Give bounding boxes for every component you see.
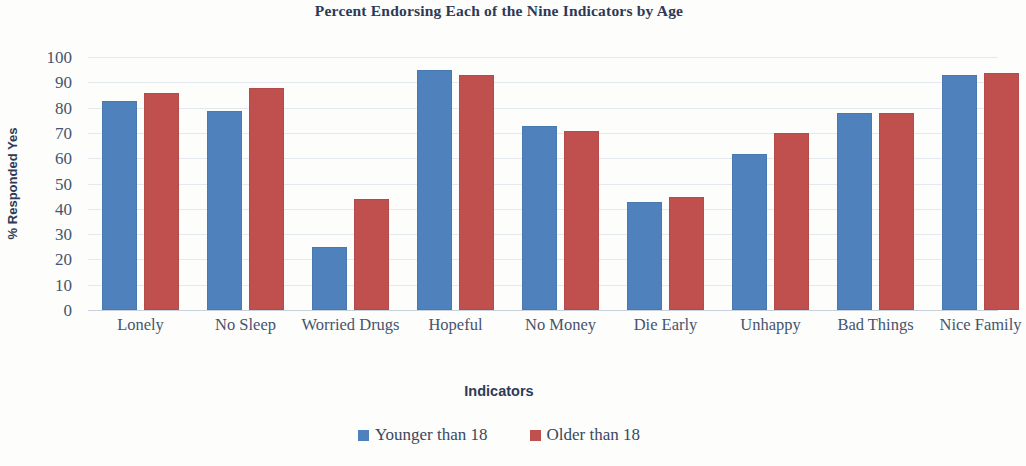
bar-younger [627,202,662,310]
legend-swatch-icon [530,430,541,441]
bar-group [823,57,928,310]
bar-younger [312,247,347,310]
bar-younger [207,111,242,310]
bar-group [928,57,1026,310]
bar-group [718,57,823,310]
legend-label: Younger than 18 [375,425,488,445]
x-tick-label: Unhappy [718,316,823,370]
bar-older [879,113,914,310]
x-tick-label: Nice Family [928,316,1026,370]
y-tick-label: 10 [55,276,72,293]
legend-label: Older than 18 [547,425,640,445]
bar-younger [417,70,452,310]
bar-group [403,57,508,310]
bar-older [669,197,704,310]
y-tick-label: 60 [55,150,72,167]
chart-legend: Younger than 18Older than 18 [0,425,998,445]
legend-item[interactable]: Older than 18 [530,425,640,445]
y-tick-label: 70 [55,124,72,141]
y-tick-label: 0 [64,302,73,319]
y-tick-label: 30 [55,226,72,243]
x-tick-label: No Money [508,316,613,370]
bar-group [88,57,193,310]
bar-group [508,57,613,310]
y-tick-label: 100 [47,49,73,66]
bar-younger [942,75,977,310]
y-tick-label: 50 [55,175,72,192]
bar-younger [732,154,767,310]
legend-item[interactable]: Younger than 18 [358,425,488,445]
plot-area [88,57,998,310]
x-axis: LonelyNo SleepWorried DrugsHopefulNo Mon… [88,316,998,370]
bar-older [459,75,494,310]
chart-title: Percent Endorsing Each of the Nine Indic… [0,2,998,20]
x-tick-label: No Sleep [193,316,298,370]
legend-swatch-icon [358,430,369,441]
bar-groups [88,57,998,310]
bar-older [144,93,179,310]
bar-older [564,131,599,310]
y-tick-label: 80 [55,99,72,116]
x-tick-label: Worried Drugs [298,316,403,370]
y-tick-label: 20 [55,251,72,268]
x-tick-label: Lonely [88,316,193,370]
x-tick-label: Die Early [613,316,718,370]
bar-younger [102,101,137,310]
x-tick-label: Bad Things [823,316,928,370]
bar-older [774,133,809,310]
bar-group [193,57,298,310]
bar-older [249,88,284,310]
bar-younger [837,113,872,310]
x-tick-label: Hopeful [403,316,508,370]
bar-group [613,57,718,310]
bar-older [354,199,389,310]
x-axis-title: Indicators [0,383,998,399]
gridline-0 [88,310,998,311]
y-tick-label: 40 [55,200,72,217]
y-tick-label: 90 [55,74,72,91]
bar-older [984,73,1019,310]
bar-younger [522,126,557,310]
bar-group [298,57,403,310]
y-axis: 1009080706050403020100 [0,57,80,310]
